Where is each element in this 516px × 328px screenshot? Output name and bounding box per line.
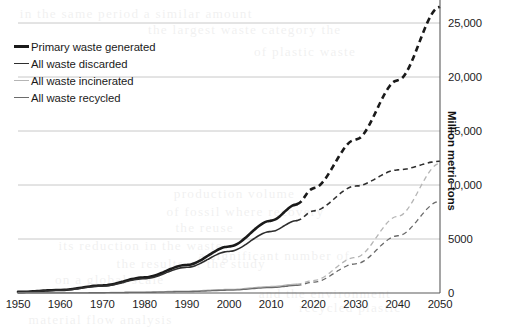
legend-item-all-waste-recycled[interactable]: All waste recycled [14,89,204,106]
y-tick-5000: 5000 [448,233,473,245]
y-tick-0: 0 [448,287,454,299]
series-all-waste-incinerated [18,163,440,293]
legend-item-primary-waste-generated[interactable]: Primary waste generated [14,38,204,55]
x-tick-1950: 1950 [6,298,31,310]
legend-line-swatch-icon [14,80,29,81]
y-tick-25000: 25,000 [448,17,482,29]
x-tick-2000: 2000 [217,298,242,310]
x-tick-1980: 1980 [132,298,157,310]
x-tick-2020: 2020 [301,298,326,310]
chart-legend: Primary waste generatedAll waste discard… [14,38,204,106]
y-tick-20000: 20,000 [448,71,482,83]
legend-line-swatch-icon [14,97,29,98]
x-tick-2010: 2010 [259,298,284,310]
x-tick-2050: 2050 [428,298,453,310]
x-tick-2040: 2040 [385,298,410,310]
x-tick-1960: 1960 [48,298,73,310]
y-axis-title-wrapper: Million metric tons [487,96,501,226]
legend-line-swatch-icon [14,45,29,47]
legend-item-all-waste-discarded[interactable]: All waste discarded [14,55,204,72]
legend-item-label: All waste recycled [31,92,121,104]
legend-item-all-waste-incinerated[interactable]: All waste incinerated [14,72,204,89]
series-all-waste-discarded [18,161,440,292]
x-tick-1970: 1970 [90,298,115,310]
legend-item-label: Primary waste generated [31,41,155,53]
legend-line-swatch-icon [14,63,29,64]
legend-item-label: All waste discarded [31,58,127,70]
x-tick-1990: 1990 [174,298,199,310]
x-tick-2030: 2030 [343,298,368,310]
legend-item-label: All waste incinerated [31,75,134,87]
y-axis-title: Million metric tons [446,111,458,211]
